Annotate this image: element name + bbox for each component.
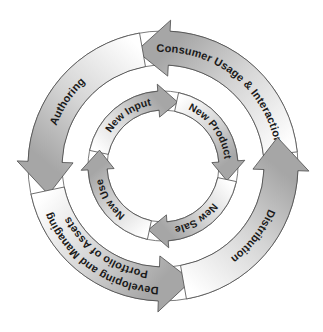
- arrow-shape-new-product: [175, 93, 245, 181]
- outer-ring-arrows: Consumer Usage & InteractionAuthoringDev…: [17, 20, 309, 312]
- arrow-new-sale: New Sale: [148, 178, 236, 248]
- outer-ring: Consumer Usage & InteractionAuthoringDev…: [17, 20, 309, 312]
- arrow-shape-new-sale: [148, 178, 236, 248]
- arrow-shape-new-use: [81, 150, 151, 239]
- arrow-shape-new-input: [90, 84, 178, 154]
- inner-ring-arrows: New InputNew ProductNew SaleNew Use: [81, 84, 245, 248]
- inner-ring-inner-line: [107, 110, 219, 222]
- arrow-new-use: New Use: [81, 150, 151, 239]
- arrow-new-input: New Input: [90, 84, 178, 154]
- inner-ring: New InputNew ProductNew SaleNew Use: [81, 84, 245, 248]
- arrow-new-product: New Product: [175, 93, 245, 181]
- cycle-diagram: Consumer Usage & InteractionAuthoringDev…: [0, 0, 323, 332]
